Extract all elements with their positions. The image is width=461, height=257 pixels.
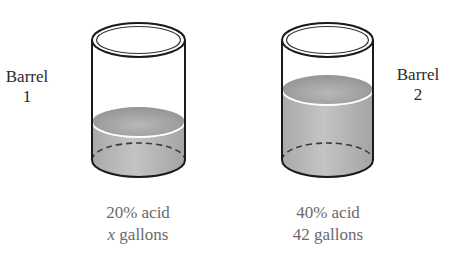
barrel-2-volume-unit: gallons bbox=[314, 225, 363, 244]
barrel-1-label: Barrel 1 bbox=[2, 67, 52, 107]
barrel-2-label-number: 2 bbox=[393, 85, 443, 105]
barrel-2-concentration: 40% acid bbox=[278, 202, 378, 224]
barrel-2 bbox=[282, 23, 373, 177]
barrel-1-concentration: 20% acid bbox=[88, 202, 188, 224]
barrel-1-volume-variable: x bbox=[108, 225, 116, 244]
barrel-1-label-word: Barrel bbox=[2, 67, 52, 87]
barrel-1-volume-unit: gallons bbox=[119, 225, 168, 244]
barrel-2-caption: 40% acid 42 gallons bbox=[278, 202, 378, 246]
barrel-1-volume: x gallons bbox=[88, 224, 188, 246]
barrel-1 bbox=[92, 23, 185, 177]
barrel-2-label-word: Barrel bbox=[393, 65, 443, 85]
barrel-2-volume: 42 gallons bbox=[278, 224, 378, 246]
barrel-1-top-rim bbox=[92, 23, 185, 57]
diagram-stage: Barrel 1 Barrel 2 20% acid x gallons 40%… bbox=[0, 0, 461, 257]
barrel-2-top-rim bbox=[282, 23, 373, 57]
barrel-1-label-number: 1 bbox=[2, 87, 52, 107]
barrel-2-volume-value: 42 bbox=[293, 225, 310, 244]
barrels-illustration bbox=[0, 0, 461, 257]
barrel-2-label: Barrel 2 bbox=[393, 65, 443, 105]
barrel-1-caption: 20% acid x gallons bbox=[88, 202, 188, 246]
